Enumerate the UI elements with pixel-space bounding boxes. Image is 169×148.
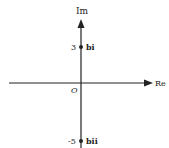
point-bi-value: 3: [71, 43, 76, 52]
point-bii: [79, 139, 83, 143]
imaginary-axis-arrow-icon: [78, 19, 85, 28]
imag-axis-label: Im: [76, 6, 89, 16]
point-bi: [79, 45, 83, 49]
point-bi-label: bi: [86, 42, 95, 52]
argand-diagram: Im Re O 3 bi -5 bii: [0, 0, 169, 148]
real-axis-label: Re: [155, 79, 166, 88]
real-axis-arrow-icon: [144, 80, 153, 87]
point-bii-value: -5: [68, 137, 76, 146]
origin-label: O: [71, 86, 78, 95]
point-bii-label: bii: [86, 136, 98, 146]
